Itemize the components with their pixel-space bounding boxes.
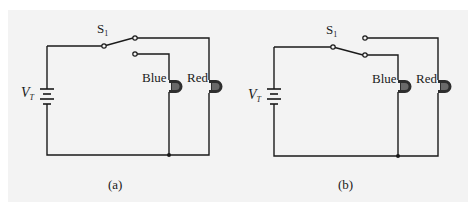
- switch-contact-upper: [363, 36, 367, 40]
- switch-contact-lower: [363, 53, 367, 57]
- switch-label: S1: [97, 21, 108, 38]
- circuit-diagram-a: S1 VT Blue Red (a): [21, 21, 223, 192]
- switch-contact-upper: [133, 36, 137, 40]
- lamp-label-red: Red: [187, 70, 208, 85]
- lamp-label-blue: Blue: [142, 70, 167, 85]
- source-label: VT: [21, 85, 35, 102]
- switch-pivot: [331, 45, 335, 49]
- panel-caption-a: (a): [108, 177, 122, 192]
- switch-pivot: [102, 44, 106, 48]
- lamp-label-blue: Blue: [372, 71, 397, 86]
- circuit-diagram-b: S1 VT Blue Red (b): [248, 22, 452, 192]
- source-label: VT: [248, 87, 262, 104]
- panel-caption-b: (b): [338, 177, 353, 192]
- switch-arm: [333, 47, 363, 55]
- switch-label: S1: [326, 22, 337, 39]
- lamp-blue-icon: [169, 80, 183, 93]
- lamp-red-icon: [438, 80, 452, 93]
- switch-contact-lower: [133, 52, 137, 56]
- battery-symbol: [267, 89, 281, 104]
- battery-symbol: [40, 89, 54, 104]
- wire-bottom-loop: [47, 93, 209, 155]
- switch-arm: [104, 38, 133, 46]
- wire-bottom-loop: [274, 93, 438, 156]
- lamp-red-icon: [209, 80, 223, 93]
- lamp-label-red: Red: [416, 71, 437, 86]
- junction-dot: [167, 153, 171, 157]
- junction-dot: [396, 154, 400, 158]
- lamp-blue-icon: [398, 80, 412, 93]
- circuit-figure: S1 VT Blue Red (a) S1: [0, 0, 476, 213]
